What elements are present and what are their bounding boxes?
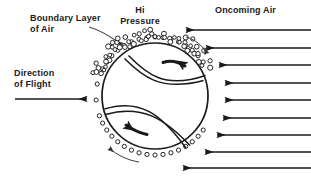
- boundary-layer-bead: [201, 128, 205, 132]
- turbulent-bead: [94, 61, 98, 65]
- boundary-layer-bead: [137, 151, 141, 155]
- turbulent-bead: [132, 33, 136, 37]
- turbulent-bead: [110, 45, 114, 49]
- boundary-layer-bead: [153, 153, 157, 157]
- turbulent-bead: [139, 39, 143, 43]
- turbulent-bead: [94, 70, 99, 75]
- ball-group: [102, 43, 208, 149]
- boundary-layer-bead: [161, 152, 165, 156]
- bottom-left-surface-arc-icon: [109, 148, 139, 162]
- turbulent-bead: [117, 45, 122, 50]
- turbulent-bead: [148, 27, 153, 32]
- turbulent-bead: [157, 35, 161, 39]
- turbulent-bead: [104, 59, 109, 64]
- turbulent-bead: [115, 36, 120, 41]
- turbulent-bead: [127, 40, 131, 44]
- turbulent-bead: [178, 40, 182, 44]
- boundary-layer-label: Boundary Layer of Air: [30, 13, 101, 34]
- turbulent-bead: [123, 45, 128, 50]
- boundary-layer-bead: [176, 148, 180, 152]
- boundary-layer-bead: [116, 140, 120, 144]
- turbulent-bead: [143, 29, 147, 33]
- turbulent-bead: [137, 32, 141, 36]
- diagram-canvas: Boundary Layer of Air Hi Pressure Oncomi…: [0, 0, 311, 180]
- boundary-layer-bead: [95, 82, 99, 86]
- turbulent-bead: [208, 65, 213, 70]
- boundary-layer-bead: [129, 148, 133, 152]
- turbulent-bead: [163, 35, 167, 39]
- boundary-layer-bead: [196, 134, 200, 138]
- boundary-layer-bead: [145, 152, 149, 156]
- boundary-layer-bead: [110, 134, 114, 138]
- direction-of-flight-label-line2: of Flight: [14, 79, 54, 90]
- boundary-layer-bead: [101, 121, 105, 125]
- boundary-layer-bead: [97, 114, 101, 118]
- hi-pressure-label-line2: Pressure: [112, 16, 168, 27]
- turbulent-bead: [173, 36, 177, 40]
- boundary-layer-bead: [169, 151, 173, 155]
- boundary-layer-bead: [105, 128, 109, 132]
- boundary-layer-bead: [122, 144, 126, 148]
- turbulent-bead: [196, 51, 200, 55]
- turbulent-bead: [189, 44, 193, 48]
- turbulent-bead: [177, 36, 181, 40]
- boundary-layer-label-line2: of Air: [30, 24, 101, 35]
- turbulent-bead: [110, 40, 114, 44]
- turbulent-bead: [104, 65, 108, 69]
- boundary-layer-bead: [94, 98, 98, 102]
- direction-of-flight-label-line1: Direction: [14, 68, 54, 79]
- turbulent-bead: [146, 34, 150, 38]
- boundary-layer-label-line1: Boundary Layer: [30, 13, 101, 24]
- turbulent-bead: [99, 71, 104, 76]
- turbulent-bead: [168, 39, 173, 44]
- direction-of-flight-label: Direction of Flight: [14, 68, 54, 89]
- turbulent-bead: [104, 55, 108, 59]
- turbulent-bead: [194, 44, 199, 49]
- ball-outline: [102, 43, 208, 149]
- turbulent-bead: [182, 44, 187, 49]
- boundary-layer-bead: [190, 140, 194, 144]
- turbulent-bead: [108, 53, 112, 57]
- turbulent-bead: [208, 59, 212, 63]
- turbulent-bead: [153, 35, 157, 39]
- hi-pressure-label-line1: Hi: [112, 5, 168, 16]
- oncoming-air-label-line1: Oncoming Air: [215, 5, 276, 16]
- turbulent-bead: [123, 35, 128, 40]
- hi-pressure-label: Hi Pressure: [112, 5, 168, 26]
- oncoming-air-label: Oncoming Air: [215, 5, 276, 16]
